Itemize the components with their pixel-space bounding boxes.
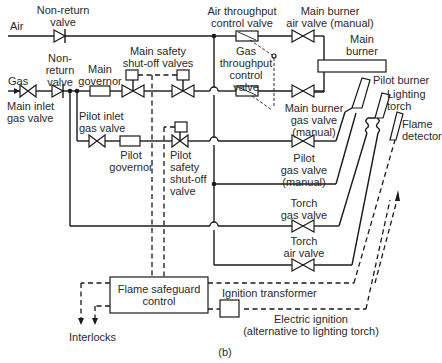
air-input-label: Air [10,20,23,32]
pilot-inlet-gas-valve-label: Pilot inlet gas valve [79,110,125,134]
air-throughput-control-valve-label: Air throughput control valve [200,5,284,29]
electric-ignition-label: Electric ignition (alternative to lighti… [238,313,384,337]
burner-control-schematic: Air Non-return valve Gas Non- return val… [0,0,442,363]
pilot-gas-valve-label: Pilot gas valve (manual) [276,152,332,188]
gas-input-label: Gas [8,75,28,87]
main-governor-label: Main governor [74,63,126,87]
main-burner-label: Main burner [338,33,386,57]
main-burner-gas-valve-label: Main burner gas valve (manual) [278,102,350,138]
main-safety-shutoff-valves-label: Main safety shut-off valves [120,45,196,69]
torch-air-valve-label: Torch air valve [276,235,332,259]
flame-detector-label: Flame detector [402,118,442,142]
torch-gas-valve-label: Torch gas valve [276,197,332,221]
ignition-transformer-label: Ignition transformer [222,287,317,299]
gas-throughput-control-valve-label: Gas throughput control valve [216,45,276,93]
figure-caption: (b) [210,346,240,358]
pilot-burner-label: Pilot burner [373,74,429,86]
lighting-torch-label: Lighting torch [387,88,426,112]
interlocks-label: Interlocks [69,331,116,343]
ignition-transformer-icon [220,300,239,317]
main-safety-shutoff-valve-2-icon [172,70,194,97]
air-non-return-valve-label: Non-return valve [30,4,96,28]
main-governor-icon [90,86,110,96]
main-burner-gas-valve-icon [292,85,324,97]
air-throughput-control-valve-icon [236,31,258,41]
main-inlet-gas-valve-label: Main inlet gas valve [7,100,54,124]
main-burner-air-valve-icon [292,30,314,42]
flame-safeguard-control-label: Flame safeguard control [110,283,208,307]
pilot-governor-label: Pilot governor [105,149,157,173]
air-non-return-valve-icon [54,29,65,43]
main-burner-icon [318,60,386,72]
pilot-safety-shutoff-valve-label: Pilot safety shut-off valve [170,149,207,197]
main-burner-air-valve-label: Main burner air valve (manual) [285,5,375,29]
